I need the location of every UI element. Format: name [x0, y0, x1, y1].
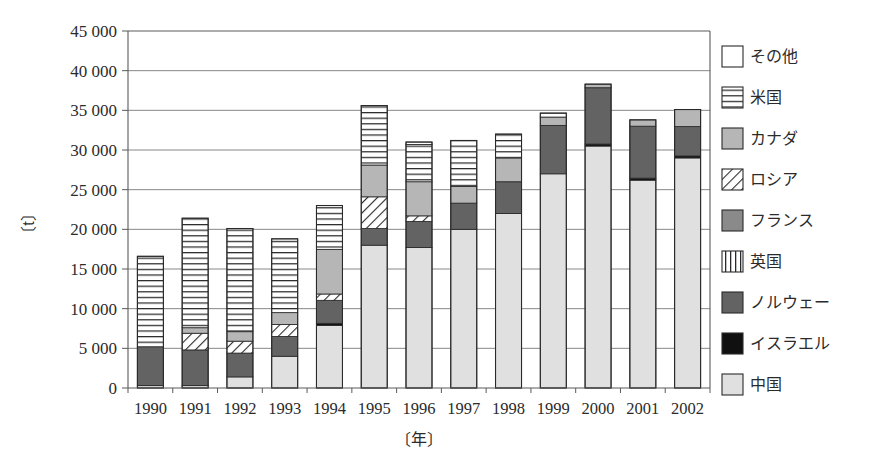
bar-stack — [540, 113, 566, 388]
bar-stack — [451, 140, 477, 388]
bar-segment — [361, 245, 387, 388]
bar-segment — [630, 120, 656, 126]
y-tick-label: 25 000 — [70, 181, 117, 200]
bar-segment — [496, 158, 522, 182]
bar-segment — [272, 239, 298, 313]
bar-segment — [496, 213, 522, 388]
bar-segment — [406, 182, 432, 216]
x-tick-label: 1998 — [492, 399, 525, 418]
bar-segment — [316, 294, 342, 300]
x-tick-label: 1990 — [134, 399, 167, 418]
bar-segment — [272, 313, 298, 325]
x-tick-label: 1991 — [179, 399, 212, 418]
x-axis-ticks: 1990199119921993199419951996199719981999… — [128, 388, 710, 418]
bar-segment — [406, 216, 432, 222]
bar-stack — [585, 84, 611, 388]
bar-segment — [361, 229, 387, 246]
bar-stack — [272, 239, 298, 388]
bar-stack — [316, 206, 342, 388]
x-tick-label: 1994 — [313, 399, 346, 418]
bar-segment — [272, 356, 298, 388]
x-axis-label: 〔年〕 — [395, 431, 443, 448]
y-tick-label: 40 000 — [70, 62, 117, 81]
bar-segment — [227, 377, 253, 388]
bar-segment — [316, 325, 342, 388]
bar-segment — [316, 300, 342, 323]
chart-legend: その他米国カナダロシアフランス英国ノルウェーイスラエル中国 — [722, 46, 830, 395]
bar-segment — [496, 182, 522, 214]
y-tick-label: 45 000 — [70, 22, 117, 41]
legend-swatch — [722, 46, 743, 67]
bar-segment — [227, 341, 253, 353]
x-tick-label: 1992 — [223, 399, 256, 418]
y-tick-label: 5 000 — [79, 339, 117, 358]
bar-segment — [316, 206, 342, 250]
y-tick-label: 10 000 — [70, 300, 117, 319]
bar-stack — [137, 256, 163, 388]
legend-swatch — [722, 128, 743, 149]
bar-segment — [675, 110, 701, 127]
legend-label: 米国 — [750, 89, 782, 106]
bar-segment — [182, 350, 208, 386]
bar-segment — [182, 218, 208, 327]
legend-swatch — [722, 333, 743, 354]
y-tick-label: 15 000 — [70, 260, 117, 279]
x-tick-label: 2000 — [582, 399, 615, 418]
bar-segment — [451, 186, 477, 203]
bar-stack — [406, 142, 432, 388]
bar-segment — [630, 126, 656, 178]
legend-label: 英国 — [750, 253, 782, 270]
y-axis-label: 〔t〕 — [20, 205, 37, 241]
bar-segment — [451, 203, 477, 229]
legend-swatch — [722, 87, 743, 108]
legend-label: ノルウェー — [750, 294, 830, 311]
bar-segment — [227, 332, 253, 342]
bar-segment — [451, 140, 477, 186]
legend-label: カナダ — [750, 130, 798, 147]
bar-segment — [406, 248, 432, 388]
bar-segment — [316, 250, 342, 294]
legend-swatch — [722, 169, 743, 190]
x-tick-label: 1996 — [403, 399, 436, 418]
x-tick-label: 1997 — [447, 399, 480, 418]
legend-swatch — [722, 374, 743, 395]
y-axis-ticks: 05 00010 00015 00020 00025 00030 00035 0… — [70, 22, 128, 398]
y-tick-label: 0 — [109, 379, 118, 398]
stacked-bar-chart: 05 00010 00015 00020 00025 00030 00035 0… — [0, 0, 873, 468]
bar-segment — [272, 325, 298, 337]
chart-container: 05 00010 00015 00020 00025 00030 00035 0… — [0, 0, 873, 468]
y-tick-label: 20 000 — [70, 220, 117, 239]
bar-segment — [361, 197, 387, 229]
bar-stack — [630, 120, 656, 388]
x-tick-label: 1999 — [537, 399, 570, 418]
legend-swatch — [722, 210, 743, 231]
bar-segment — [361, 106, 387, 166]
bar-segment — [182, 328, 208, 334]
legend-swatch — [722, 251, 743, 272]
y-tick-label: 35 000 — [70, 101, 117, 120]
x-tick-label: 2001 — [626, 399, 659, 418]
bar-segment — [227, 353, 253, 377]
bar-segment — [361, 165, 387, 197]
bar-segment — [227, 229, 253, 332]
bar-stack — [675, 110, 701, 388]
bars-group — [137, 84, 700, 388]
bar-segment — [540, 125, 566, 173]
legend-swatch — [722, 292, 743, 313]
y-tick-label: 30 000 — [70, 141, 117, 160]
bar-segment — [585, 146, 611, 388]
bar-segment — [137, 347, 163, 386]
bar-segment — [540, 113, 566, 117]
legend-label: 中国 — [750, 376, 782, 393]
bar-segment — [182, 333, 208, 350]
legend-label: その他 — [750, 48, 798, 65]
legend-label: フランス — [750, 212, 814, 229]
bar-stack — [182, 218, 208, 388]
legend-label: ロシア — [750, 171, 798, 188]
bar-segment — [540, 117, 566, 125]
legend-label: イスラエル — [750, 335, 830, 352]
bar-segment — [630, 180, 656, 388]
bar-segment — [406, 144, 432, 181]
bar-segment — [675, 127, 701, 156]
bar-segment — [675, 158, 701, 388]
